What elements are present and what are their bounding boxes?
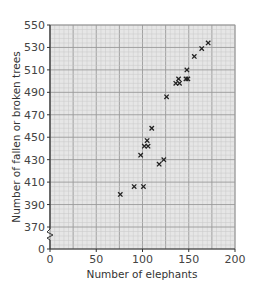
x-tick-label: 50 [89, 253, 103, 266]
x-tick-label: 150 [178, 253, 199, 266]
y-tick-label: 0 [38, 243, 45, 256]
y-tick-label: 450 [24, 131, 45, 144]
y-tick-label: 390 [24, 199, 45, 212]
y-tick-label: 370 [24, 221, 45, 234]
y-tick-label: 550 [24, 19, 45, 32]
x-tick-label: 0 [47, 253, 54, 266]
x-tick-label: 100 [132, 253, 153, 266]
scatter-chart: 0501001502000370390410430450470490510530… [0, 0, 255, 290]
grid [50, 25, 235, 249]
y-axis-label: Number of fallen or broken trees [10, 51, 22, 222]
y-tick-label: 470 [24, 109, 45, 122]
y-tick-label: 510 [24, 64, 45, 77]
y-tick-label: 490 [24, 86, 45, 99]
y-tick-label: 410 [24, 176, 45, 189]
x-tick-label: 200 [225, 253, 246, 266]
x-axis-label: Number of elephants [87, 268, 198, 280]
y-tick-label: 530 [24, 41, 45, 54]
y-tick-label: 430 [24, 154, 45, 167]
